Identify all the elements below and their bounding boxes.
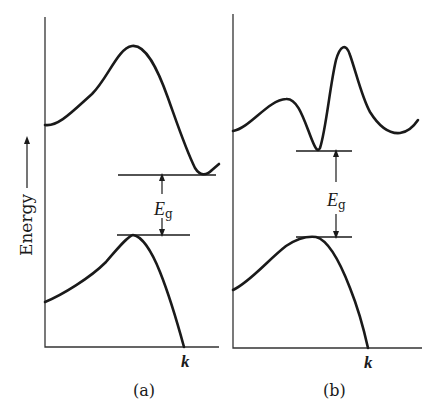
panel-a-axes bbox=[45, 17, 219, 347]
panel-b: Eg k (b) bbox=[233, 14, 422, 400]
panel-a-k-label: k bbox=[181, 352, 190, 371]
panel-a-valence-band bbox=[45, 235, 184, 347]
panel-a: Eg k (a) bbox=[45, 17, 219, 400]
panel-b-k-label: k bbox=[364, 353, 373, 372]
panel-b-conduction-band bbox=[233, 47, 418, 150]
panel-a-conduction-band bbox=[45, 46, 219, 174]
energy-axis-label: Energy bbox=[16, 140, 36, 256]
panel-b-valence-band bbox=[233, 237, 368, 348]
band-diagram: Energy Eg k (a) Eg k bbox=[0, 0, 442, 412]
energy-label-text: Energy bbox=[16, 194, 36, 256]
panel-a-caption: (a) bbox=[133, 381, 155, 400]
panel-b-axes bbox=[233, 14, 422, 348]
panel-b-eg-label: Eg bbox=[326, 190, 346, 212]
panel-a-eg-label: Eg bbox=[153, 199, 173, 221]
panel-b-caption: (b) bbox=[323, 381, 346, 400]
